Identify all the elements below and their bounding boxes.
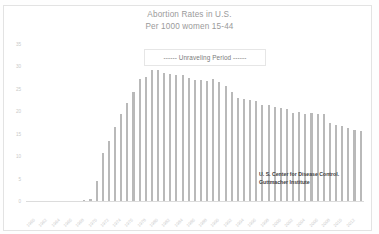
bar [329,123,331,201]
y-axis-tick: 15 [16,131,21,136]
x-axis-tick: 1964 [50,218,60,228]
x-axis-tick: 1994 [234,218,244,228]
x-axis-tick: 1992 [222,218,232,228]
bar [139,79,141,201]
bar [255,101,257,201]
y-axis-tick: 0 [18,199,21,204]
bar [274,107,276,201]
bar [280,108,282,201]
x-axis-tick: 1998 [259,218,269,228]
y-axis-tick: 35 [16,42,21,47]
x-axis-tick: 1970 [87,218,97,228]
bar [231,92,233,201]
bar [353,130,355,201]
bar [132,92,134,201]
x-axis-tick: 1984 [173,218,183,228]
bar [114,127,116,201]
bar [126,103,128,201]
bar [292,113,294,201]
x-axis-tick: 1990 [210,218,220,228]
bar [298,112,300,201]
bar [182,75,184,201]
x-axis-tick: 2002 [284,218,294,228]
x-axis-tick: 2006 [308,218,318,228]
bar [286,109,288,201]
bar [360,131,362,201]
bar [188,78,190,201]
bar [157,70,159,201]
bar [261,105,263,201]
x-axis-tick: 2004 [296,218,306,228]
bar [237,98,239,201]
bar [151,70,153,201]
bar [120,114,122,201]
x-axis-tick: 1980 [148,218,158,228]
x-axis-tick: 2012 [345,218,355,228]
bar [145,77,147,201]
source-attribution: U. S. Center for Disease Control. Guttma… [259,171,371,186]
bar [108,141,110,201]
bar [347,128,349,201]
x-axis-tick: 2000 [271,218,281,228]
bar [206,81,208,201]
x-axis-tick: 1962 [38,218,48,228]
y-axis: 35302520151050 [0,44,24,201]
x-axis-tick: 1976 [124,218,134,228]
x-axis-tick: 1968 [75,218,85,228]
source-line-cdc: U. S. Center for Disease Control. [259,171,371,179]
bar [169,74,171,201]
x-axis-tick: 1966 [62,218,72,228]
bar [212,79,214,201]
bar [317,114,319,201]
bar [194,80,196,201]
bar [96,181,98,201]
y-axis-tick: 20 [16,109,21,114]
x-axis-tick: 1972 [99,218,109,228]
unraveling-period-annotation: ------ Unraveling Period ------ [144,49,266,66]
bar [225,86,227,201]
y-axis-tick: 10 [16,154,21,159]
bar [310,113,312,201]
x-axis-tick: 1960 [26,218,36,228]
screenshot-root: Abortion Rates in U.S. Per 1000 women 15… [0,0,379,234]
bar [243,99,245,201]
x-axis-tick: 1996 [247,218,257,228]
bar [268,105,270,201]
y-axis-tick: 25 [16,86,21,91]
bar [304,114,306,201]
bar [200,80,202,201]
x-axis-tick: 2008 [321,218,331,228]
bar [249,100,251,201]
bar [323,114,325,201]
bar [341,126,343,201]
bar [163,73,165,201]
x-axis: 1960196219641966196819701972197419761978… [26,202,364,230]
x-axis-tick: 2010 [333,218,343,228]
unraveling-period-label: ------ Unraveling Period ------ [164,54,247,61]
y-axis-tick: 30 [16,64,21,69]
x-axis-tick: 1982 [161,218,171,228]
x-axis-tick: 1974 [112,218,122,228]
y-axis-tick: 5 [18,176,21,181]
bar [335,125,337,201]
x-axis-tick: 1988 [198,218,208,228]
bar [175,75,177,201]
bar [102,153,104,201]
x-axis-tick: 1978 [136,218,146,228]
bar [218,82,220,201]
x-axis-tick: 1986 [185,218,195,228]
source-line-guttmacher: Guttmacher Institute [259,179,371,187]
